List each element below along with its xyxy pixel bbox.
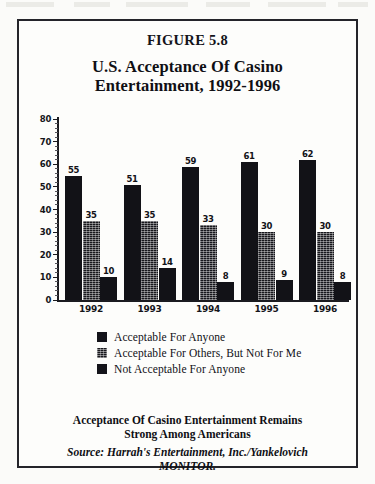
bar[interactable]: 51 bbox=[124, 185, 141, 300]
bar-group: 513514 bbox=[124, 119, 180, 300]
legend-label: Not Acceptable For Anyone bbox=[114, 363, 245, 375]
y-minor-tick bbox=[55, 168, 58, 169]
bar-value-label: 8 bbox=[340, 271, 346, 281]
y-minor-tick bbox=[55, 214, 58, 215]
chart-legend: Acceptable For AnyoneAcceptable For Othe… bbox=[19, 331, 356, 379]
y-minor-tick bbox=[55, 295, 58, 296]
figure-number: FIGURE 5.8 bbox=[19, 32, 356, 49]
x-axis-line bbox=[57, 300, 349, 302]
y-minor-tick bbox=[55, 250, 58, 251]
y-minor-tick bbox=[55, 159, 58, 160]
bar-value-label: 51 bbox=[126, 174, 137, 184]
legend-swatch-icon bbox=[97, 332, 107, 342]
y-minor-tick bbox=[55, 150, 58, 151]
x-tick-label: 1993 bbox=[122, 304, 178, 314]
figure-source: Source: Harrah's Entertainment, Inc./Yan… bbox=[31, 445, 344, 473]
y-tick-mark bbox=[53, 209, 58, 210]
bar[interactable]: 14 bbox=[159, 268, 176, 300]
legend-swatch-icon bbox=[97, 348, 107, 358]
y-minor-tick bbox=[55, 204, 58, 205]
y-tick-mark bbox=[53, 119, 58, 120]
y-minor-tick bbox=[55, 123, 58, 124]
y-minor-tick bbox=[55, 155, 58, 156]
y-minor-tick bbox=[55, 146, 58, 147]
y-minor-tick bbox=[55, 223, 58, 224]
y-minor-tick bbox=[55, 191, 58, 192]
y-minor-tick bbox=[55, 195, 58, 196]
bar-group: 62308 bbox=[299, 119, 355, 300]
bar[interactable]: 59 bbox=[182, 167, 199, 300]
y-minor-tick bbox=[55, 241, 58, 242]
bar[interactable]: 55 bbox=[65, 176, 82, 300]
y-tick-label: 10 bbox=[25, 272, 51, 282]
bar[interactable]: 62 bbox=[299, 160, 316, 300]
plot-area: 01020304050607080 5535105135145933861309… bbox=[19, 113, 356, 328]
y-minor-tick bbox=[55, 132, 58, 133]
y-minor-tick bbox=[55, 128, 58, 129]
y-tick-mark bbox=[53, 164, 58, 165]
bar-value-label: 61 bbox=[243, 151, 254, 161]
bar[interactable]: 30 bbox=[258, 232, 275, 300]
bar-value-label: 10 bbox=[103, 266, 114, 276]
y-minor-tick bbox=[55, 236, 58, 237]
figure-source-line-1: Source: Harrah's Entertainment, Inc./Yan… bbox=[31, 445, 344, 459]
y-tick-label: 70 bbox=[25, 137, 51, 147]
y-minor-tick bbox=[55, 259, 58, 260]
bar-value-label: 8 bbox=[223, 271, 229, 281]
legend-item[interactable]: Acceptable For Others, But Not For Me bbox=[97, 347, 356, 359]
x-tick-label: 1996 bbox=[297, 304, 353, 314]
y-minor-tick bbox=[55, 281, 58, 282]
scan-artifact-strip bbox=[0, 0, 375, 16]
bar-value-label: 33 bbox=[202, 214, 213, 224]
legend-item[interactable]: Not Acceptable For Anyone bbox=[97, 363, 356, 375]
chart-title-line-1: U.S. Acceptance Of Casino bbox=[19, 57, 356, 76]
bar-value-label: 14 bbox=[161, 257, 172, 267]
legend-label: Acceptable For Others, But Not For Me bbox=[114, 347, 301, 359]
y-minor-tick bbox=[55, 200, 58, 201]
bar-value-label: 35 bbox=[85, 210, 96, 220]
y-tick-mark bbox=[53, 232, 58, 233]
bar[interactable]: 33 bbox=[200, 225, 217, 300]
bar[interactable]: 30 bbox=[317, 232, 334, 300]
bar[interactable]: 61 bbox=[241, 162, 258, 300]
chart-title-line-2: Entertainment, 1992-1996 bbox=[19, 76, 356, 95]
bar[interactable]: 35 bbox=[141, 221, 158, 300]
y-tick-mark bbox=[53, 141, 58, 142]
bar-group: 61309 bbox=[241, 119, 297, 300]
y-minor-tick bbox=[55, 177, 58, 178]
bar[interactable]: 10 bbox=[100, 277, 117, 300]
bar-value-label: 30 bbox=[261, 221, 272, 231]
bar[interactable]: 9 bbox=[276, 280, 293, 300]
bar-value-label: 30 bbox=[319, 221, 330, 231]
figure-frame: FIGURE 5.8 U.S. Acceptance Of Casino Ent… bbox=[17, 19, 358, 468]
legend-swatch-icon bbox=[97, 364, 107, 374]
y-tick-label: 30 bbox=[25, 227, 51, 237]
y-tick-mark bbox=[53, 186, 58, 187]
y-minor-tick bbox=[55, 245, 58, 246]
bar-value-label: 9 bbox=[281, 269, 287, 279]
figure-caption: Acceptance Of Casino Entertainment Remai… bbox=[31, 413, 344, 441]
y-tick-mark bbox=[53, 277, 58, 278]
bar-group: 553510 bbox=[65, 119, 121, 300]
y-tick-mark bbox=[53, 254, 58, 255]
bar-value-label: 59 bbox=[185, 156, 196, 166]
y-tick-label: 80 bbox=[25, 114, 51, 124]
y-minor-tick bbox=[55, 182, 58, 183]
y-tick-label: 0 bbox=[25, 295, 51, 305]
bar-value-label: 62 bbox=[302, 149, 313, 159]
y-tick-label: 60 bbox=[25, 159, 51, 169]
y-minor-tick bbox=[55, 268, 58, 269]
y-minor-tick bbox=[55, 227, 58, 228]
bar[interactable]: 8 bbox=[217, 282, 234, 300]
x-tick-label: 1994 bbox=[180, 304, 236, 314]
y-minor-tick bbox=[55, 286, 58, 287]
y-minor-tick bbox=[55, 272, 58, 273]
bar-value-label: 35 bbox=[144, 210, 155, 220]
chart-title: U.S. Acceptance Of Casino Entertainment,… bbox=[19, 57, 356, 95]
y-tick-mark bbox=[53, 300, 58, 301]
y-minor-tick bbox=[55, 290, 58, 291]
legend-item[interactable]: Acceptable For Anyone bbox=[97, 331, 356, 343]
bar[interactable]: 8 bbox=[334, 282, 351, 300]
bar[interactable]: 35 bbox=[83, 221, 100, 300]
figure-source-line-2: MONITOR. bbox=[31, 459, 344, 473]
